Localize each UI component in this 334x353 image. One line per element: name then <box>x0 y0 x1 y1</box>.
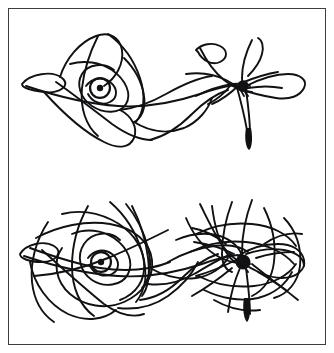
trajectory-figure <box>0 0 334 353</box>
trajectory-segment <box>244 72 278 82</box>
trajectory-segment <box>120 76 212 110</box>
cusp-tail-lower <box>243 298 250 322</box>
cusp-tail-upper <box>245 128 252 150</box>
figure-root <box>0 0 334 353</box>
elliptic-fixed-point-lower <box>98 259 104 265</box>
trajectory-segment <box>228 268 240 312</box>
trajectory-segment <box>32 222 54 322</box>
hyperbolic-fixed-point-lower <box>236 255 251 270</box>
upper-panel <box>22 34 305 147</box>
trajectory-segment <box>248 87 282 89</box>
lower-panel <box>20 200 304 322</box>
hyperbolic-fixed-point-upper <box>237 80 249 92</box>
trajectory-segment <box>214 300 260 311</box>
trajectory-segment <box>148 254 232 285</box>
trajectory-segment <box>196 44 226 63</box>
elliptic-fixed-point-upper <box>97 85 103 91</box>
trajectory-segment <box>44 92 135 147</box>
trajectory-segment <box>60 34 122 86</box>
